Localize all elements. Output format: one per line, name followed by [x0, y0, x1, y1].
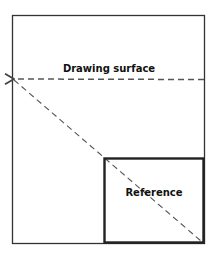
diagram: Drawing surface Reference — [0, 0, 215, 254]
drawing-surface-label: Drawing surface — [63, 63, 155, 74]
reference-label: Reference — [125, 187, 182, 198]
horizontal-dashed-line — [14, 79, 204, 80]
diagonal-dashed-line — [14, 80, 201, 241]
drawing-surface-rect — [13, 16, 205, 244]
